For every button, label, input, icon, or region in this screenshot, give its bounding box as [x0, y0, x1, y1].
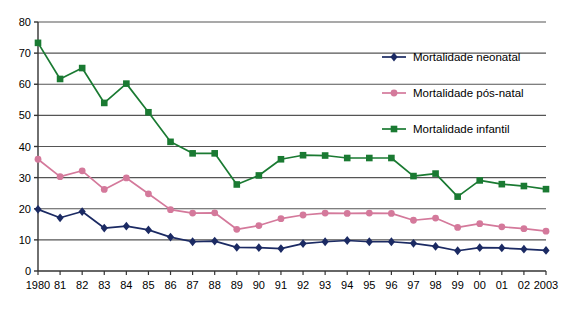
data-point-marker: [388, 210, 395, 217]
data-point-marker: [410, 173, 417, 180]
data-point-marker: [211, 209, 218, 216]
x-axis-tick-label: 86: [164, 279, 176, 291]
x-axis-tick-label: 88: [209, 279, 221, 291]
data-point-marker: [300, 212, 307, 219]
data-point-marker: [233, 226, 240, 233]
data-point-marker: [498, 223, 505, 230]
x-axis-tick-label: 01: [496, 279, 508, 291]
data-point-marker: [432, 170, 439, 177]
x-axis-tick-label: 82: [76, 279, 88, 291]
y-axis-tick-label: 30: [19, 172, 31, 184]
legend-item-label: Mortalidade neonatal: [413, 51, 520, 63]
data-point-marker: [388, 155, 395, 162]
x-axis-tick-label: 2003: [534, 279, 558, 291]
y-axis-tick-label: 60: [19, 78, 31, 90]
data-point-marker: [79, 65, 86, 72]
data-point-marker: [256, 172, 263, 179]
x-axis-tick-label: 89: [231, 279, 243, 291]
data-point-marker: [278, 156, 285, 163]
data-point-marker: [499, 181, 506, 188]
y-axis: 01020304050607080: [19, 16, 38, 277]
data-point-marker: [366, 210, 373, 217]
x-axis-tick-label: 99: [452, 279, 464, 291]
x-axis-tick-label: 93: [319, 279, 331, 291]
data-point-marker: [57, 173, 64, 180]
x-axis: 1980818283848586878889909192939495969798…: [26, 271, 558, 291]
data-point-marker: [366, 155, 373, 162]
x-axis-tick-label: 98: [429, 279, 441, 291]
x-axis-tick-label: 94: [341, 279, 353, 291]
x-axis-tick-label: 83: [98, 279, 110, 291]
data-point-marker: [391, 90, 398, 97]
data-point-marker: [189, 150, 196, 157]
data-point-marker: [189, 210, 196, 217]
data-point-marker: [101, 186, 108, 193]
x-axis-tick-label: 95: [363, 279, 375, 291]
y-axis-tick-label: 50: [19, 109, 31, 121]
data-point-marker: [233, 181, 240, 188]
data-point-marker: [432, 215, 439, 222]
y-axis-tick-label: 20: [19, 203, 31, 215]
data-point-marker: [543, 228, 550, 235]
x-axis-tick-label: 97: [407, 279, 419, 291]
x-axis-tick-label: 84: [120, 279, 132, 291]
x-axis-tick-label: 91: [275, 279, 287, 291]
x-axis-tick-label: 85: [142, 279, 154, 291]
x-axis-tick-label: 02: [518, 279, 530, 291]
data-point-marker: [35, 156, 42, 163]
x-axis-tick-label: 96: [385, 279, 397, 291]
data-point-marker: [391, 126, 398, 133]
data-point-marker: [79, 167, 86, 174]
data-point-marker: [322, 210, 329, 217]
data-point-marker: [543, 186, 550, 193]
data-point-marker: [101, 100, 108, 107]
data-point-marker: [35, 40, 42, 47]
data-point-marker: [454, 224, 461, 231]
x-axis-tick-label: 81: [54, 279, 66, 291]
x-axis-tick-label: 87: [186, 279, 198, 291]
chart-canvas: 0102030405060708019808182838485868788899…: [0, 0, 571, 315]
data-point-marker: [476, 177, 483, 184]
legend-item-label: Mortalidade pós-natal: [413, 87, 524, 99]
data-point-marker: [344, 210, 351, 217]
data-point-marker: [521, 183, 528, 190]
y-axis-tick-label: 10: [19, 234, 31, 246]
legend-item-label: Mortalidade infantil: [413, 123, 510, 135]
data-point-marker: [454, 193, 461, 200]
data-point-marker: [255, 222, 262, 229]
data-point-marker: [300, 152, 307, 159]
x-axis-tick-label: 00: [474, 279, 486, 291]
data-point-marker: [123, 80, 130, 87]
x-axis-tick-label: 90: [253, 279, 265, 291]
data-point-marker: [344, 155, 351, 162]
x-axis-tick-label: 92: [297, 279, 309, 291]
data-point-marker: [57, 76, 64, 83]
data-point-marker: [211, 150, 218, 157]
data-point-marker: [278, 215, 285, 222]
data-point-marker: [476, 220, 483, 227]
data-point-marker: [521, 225, 528, 232]
data-point-marker: [123, 175, 130, 182]
data-point-marker: [167, 206, 174, 213]
data-point-marker: [410, 217, 417, 224]
data-point-marker: [167, 139, 174, 146]
x-axis-tick-label: 1980: [26, 279, 50, 291]
y-axis-tick-label: 0: [25, 265, 31, 277]
y-axis-tick-label: 70: [19, 47, 31, 59]
y-axis-tick-label: 40: [19, 141, 31, 153]
data-point-marker: [145, 109, 152, 116]
y-axis-tick-label: 80: [19, 16, 31, 28]
data-point-marker: [322, 152, 329, 159]
line-chart: 0102030405060708019808182838485868788899…: [0, 0, 571, 315]
data-point-marker: [145, 190, 152, 197]
